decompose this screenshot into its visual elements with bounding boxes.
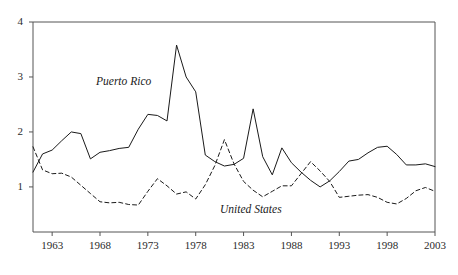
y-tick-label-4: 4 xyxy=(5,16,23,27)
x-tick-label-2003: 2003 xyxy=(415,240,455,251)
x-tick-label-1963: 1963 xyxy=(32,240,72,251)
x-tick-label-1998: 1998 xyxy=(367,240,407,251)
plot-frame xyxy=(33,22,435,232)
line-chart-plot xyxy=(0,0,458,275)
y-tick-label-1: 1 xyxy=(5,181,23,192)
x-tick-label-1988: 1988 xyxy=(271,240,311,251)
series-label-united-states: United States xyxy=(220,204,282,216)
x-tick-label-1983: 1983 xyxy=(224,240,264,251)
y-tick-label-2: 2 xyxy=(5,126,23,137)
chart-figure: 1234 19631968197319781983198819931998200… xyxy=(0,0,458,275)
series-line-puerto-rico xyxy=(33,45,435,187)
x-tick-label-1978: 1978 xyxy=(176,240,216,251)
y-tick-label-3: 3 xyxy=(5,71,23,82)
x-tick-label-1993: 1993 xyxy=(319,240,359,251)
x-tick-label-1973: 1973 xyxy=(128,240,168,251)
series-label-puerto-rico: Puerto Rico xyxy=(96,76,151,88)
x-tick-label-1968: 1968 xyxy=(80,240,120,251)
